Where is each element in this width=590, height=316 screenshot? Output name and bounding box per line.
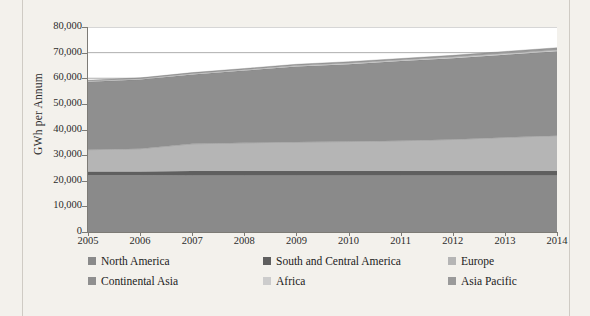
- legend-item[interactable]: Europe: [448, 255, 494, 267]
- y-tick-label: 40,000: [30, 123, 82, 134]
- y-tick-label: 30,000: [30, 148, 82, 159]
- legend-label: Continental Asia: [101, 275, 178, 287]
- x-tick-label: 2008: [224, 235, 264, 246]
- x-tick-label: 2014: [537, 235, 577, 246]
- stacked-area-chart: GWh per Annum 010,00020,00030,00040,0005…: [0, 0, 590, 316]
- x-tick-label: 2012: [433, 235, 473, 246]
- x-axis-line: [87, 232, 558, 233]
- y-tick-label: 50,000: [30, 97, 82, 108]
- y-tick-label: 10,000: [30, 199, 82, 210]
- legend-item[interactable]: Africa: [263, 275, 305, 287]
- legend-swatch: [88, 257, 96, 265]
- y-tick-label: 20,000: [30, 174, 82, 185]
- legend-label: Africa: [276, 275, 305, 287]
- legend-swatch: [263, 277, 271, 285]
- legend-swatch: [448, 277, 456, 285]
- x-tick-label: 2005: [68, 235, 108, 246]
- legend-item[interactable]: South and Central America: [263, 255, 401, 267]
- legend-label: South and Central America: [276, 255, 401, 267]
- area-series: [88, 171, 557, 175]
- legend-item[interactable]: North America: [88, 255, 170, 267]
- chart-legend: North AmericaSouth and Central AmericaEu…: [88, 255, 558, 297]
- x-tick-label: 2013: [485, 235, 525, 246]
- legend-label: North America: [101, 255, 170, 267]
- plot-svg: [88, 27, 557, 232]
- legend-swatch: [263, 257, 271, 265]
- x-tick-label: 2007: [172, 235, 212, 246]
- figure-page: GWh per Annum 010,00020,00030,00040,0005…: [0, 0, 590, 316]
- plot-area: [88, 27, 557, 232]
- legend-swatch: [448, 257, 456, 265]
- legend-item[interactable]: Continental Asia: [88, 275, 178, 287]
- legend-swatch: [88, 277, 96, 285]
- area-series: [88, 175, 557, 232]
- x-tick-label: 2011: [381, 235, 421, 246]
- y-tick-label: 70,000: [30, 46, 82, 57]
- y-tick-label: 80,000: [30, 20, 82, 31]
- legend-item[interactable]: Asia Pacific: [448, 275, 517, 287]
- x-tick-label: 2006: [120, 235, 160, 246]
- x-tick-label: 2010: [329, 235, 369, 246]
- y-tick-label: 60,000: [30, 71, 82, 82]
- legend-label: Asia Pacific: [461, 275, 517, 287]
- x-tick-label: 2009: [276, 235, 316, 246]
- legend-label: Europe: [461, 255, 494, 267]
